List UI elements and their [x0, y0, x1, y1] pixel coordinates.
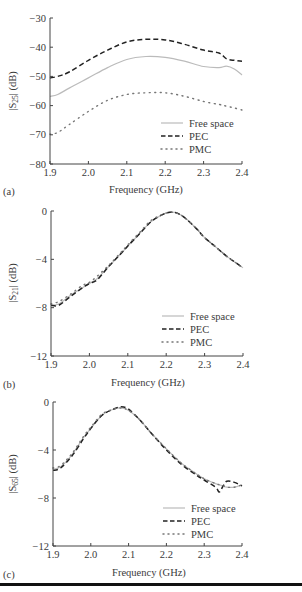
chart-panel-c: 1.92.02.12.22.32.40−4−8−12 (c) Frequency… [3, 397, 249, 582]
y-tick-label: 0 [42, 206, 47, 217]
y-tick-label: 0 [44, 397, 49, 408]
series-layer [53, 407, 242, 492]
legend-label: Free space [191, 503, 236, 514]
legend-label: Free space [189, 118, 234, 129]
y-tick-label: −4 [36, 254, 48, 265]
x-tick-label: 2.0 [82, 167, 95, 178]
x-tick-label: 2.1 [122, 549, 135, 560]
series-free-space [50, 56, 242, 96]
y-tick-label: −12 [33, 541, 49, 552]
chart-panel-a: 1.92.02.12.22.32.4−30−40−50−60−70−80 (a)… [3, 13, 249, 199]
legend-label: PMC [190, 337, 212, 348]
series-pec [50, 39, 242, 78]
y-tick-label: −8 [38, 493, 49, 504]
legend: Free spacePECPMC [163, 503, 236, 540]
x-tick-label: 2.2 [160, 359, 173, 370]
legend-label: PMC [191, 529, 213, 540]
series-free-space [53, 408, 242, 487]
x-tick-label: 2.0 [84, 549, 97, 560]
panel-label: (b) [3, 379, 16, 391]
x-tick-label: 2.1 [121, 359, 134, 370]
panel-label: (a) [3, 186, 15, 198]
y-tick-label: −60 [30, 100, 46, 111]
axes: 1.92.02.12.22.32.40−4−8−12 [31, 206, 251, 371]
legend-label: PMC [189, 144, 211, 155]
x-tick-label: 2.4 [236, 359, 250, 370]
x-tick-label: 2.2 [159, 167, 172, 178]
y-axis-label: |S21| (dB) [7, 263, 20, 303]
legend-label: PEC [189, 131, 208, 142]
y-tick-label: −70 [30, 129, 46, 140]
y-tick-label: −4 [38, 445, 50, 456]
series-free-space [51, 212, 243, 305]
x-axis-label: Frequency (GHz) [109, 184, 183, 196]
series-pmc [53, 408, 242, 487]
y-tick-label: −8 [36, 302, 47, 313]
y-axis-label: |S25| (dB) [7, 71, 20, 111]
panel-label: (c) [3, 569, 15, 581]
legend: Free spacePECPMC [161, 118, 234, 155]
figure-canvas: 1.92.02.12.22.32.4−30−40−50−60−70−80 (a)… [0, 0, 302, 592]
y-tick-label: −40 [30, 42, 46, 53]
y-axis-label: |S65| (dB) [7, 454, 20, 494]
series-layer [51, 212, 243, 306]
legend: Free spacePECPMC [162, 311, 235, 348]
x-tick-label: 2.3 [198, 359, 211, 370]
y-tick-label: −30 [30, 13, 46, 24]
legend-label: PEC [191, 516, 210, 527]
y-tick-label: −50 [30, 71, 46, 82]
x-tick-label: 2.4 [235, 167, 249, 178]
y-tick-label: −80 [30, 159, 46, 170]
x-tick-label: 2.1 [120, 167, 133, 178]
legend-label: PEC [190, 324, 209, 335]
x-axis-label: Frequency (GHz) [111, 377, 185, 389]
bottom-rule [0, 583, 302, 586]
series-pec [53, 407, 242, 492]
x-tick-label: 2.2 [160, 549, 173, 560]
x-tick-label: 2.3 [198, 549, 211, 560]
x-tick-label: 2.3 [197, 167, 210, 178]
legend-label: Free space [190, 311, 235, 322]
x-tick-label: 2.4 [235, 549, 249, 560]
axes: 1.92.02.12.22.32.4−30−40−50−60−70−80 [30, 13, 250, 179]
y-tick-label: −12 [31, 351, 47, 362]
x-axis-label: Frequency (GHz) [112, 567, 186, 579]
x-tick-label: 2.0 [83, 359, 96, 370]
chart-panel-b: 1.92.02.12.22.32.40−4−8−12 (b) Frequency… [3, 206, 250, 392]
